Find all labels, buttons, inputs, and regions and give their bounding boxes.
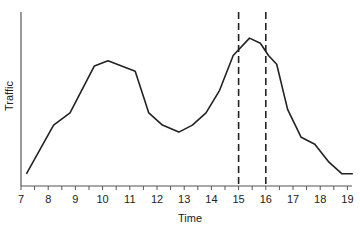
- x-axis-label: Time: [178, 212, 202, 224]
- traffic-series-line: [26, 38, 352, 174]
- x-tick-label: 15: [232, 193, 244, 205]
- traffic-line-chart: 78910111213141516171819 Time Traffic: [0, 0, 360, 227]
- axes: 78910111213141516171819: [18, 12, 354, 205]
- x-tick-label: 13: [178, 193, 190, 205]
- x-tick-label: 12: [151, 193, 163, 205]
- y-axis-label: Traffic: [3, 81, 15, 111]
- x-tick-label: 18: [314, 193, 326, 205]
- x-tick-label: 16: [260, 193, 272, 205]
- x-tick-labels: 78910111213141516171819: [18, 193, 354, 205]
- x-tick-label: 8: [45, 193, 51, 205]
- x-tick-label: 19: [341, 193, 353, 205]
- x-tick-label: 17: [287, 193, 299, 205]
- x-tick-label: 7: [18, 193, 24, 205]
- x-tick-label: 11: [124, 193, 135, 205]
- x-ticks: [21, 186, 347, 190]
- x-tick-label: 14: [205, 193, 217, 205]
- x-tick-label: 9: [72, 193, 78, 205]
- dashed-reference-lines: [239, 12, 266, 186]
- x-tick-label: 10: [96, 193, 108, 205]
